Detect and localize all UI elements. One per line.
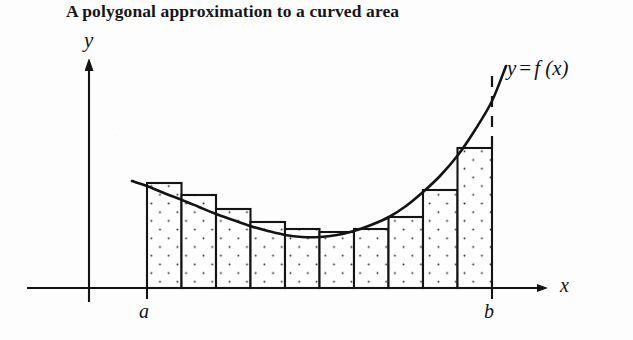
approximating-rectangle bbox=[423, 190, 458, 288]
function-label-y: y bbox=[507, 56, 516, 80]
function-label: y=f (x) bbox=[507, 56, 569, 81]
approximating-rectangle bbox=[320, 232, 355, 288]
lower-limit-label: a bbox=[139, 300, 149, 323]
approximating-rectangle bbox=[389, 217, 424, 288]
x-axis-label: x bbox=[560, 274, 569, 297]
figure-container: A polygonal approximation to a curved ar… bbox=[0, 0, 633, 340]
approximating-rectangle bbox=[182, 195, 217, 288]
approximating-rectangle bbox=[458, 148, 493, 288]
function-label-equals: = bbox=[516, 56, 534, 80]
approximating-rectangle bbox=[354, 229, 389, 288]
plot-canvas bbox=[0, 0, 633, 340]
y-axis-label: y bbox=[84, 28, 93, 53]
rectangle-approximation-group bbox=[147, 148, 492, 288]
upper-limit-label: b bbox=[484, 300, 494, 323]
function-label-fx: f (x) bbox=[534, 56, 568, 80]
